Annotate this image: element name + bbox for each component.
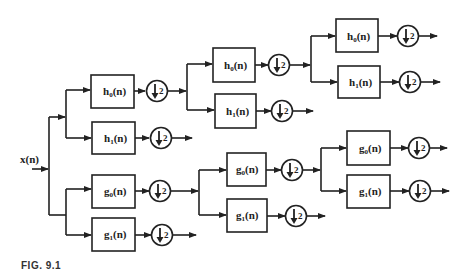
downsample-icon: 2 (400, 72, 421, 93)
svg-text:2: 2 (422, 186, 427, 196)
svg-text:h0(n): h0(n) (103, 85, 126, 99)
svg-text:2: 2 (412, 77, 417, 87)
filter-box-l2-g0: g0(n) (227, 153, 266, 186)
downsample-icon: 2 (398, 26, 419, 47)
figure-caption: FIG. 9.1 (21, 260, 61, 271)
downsample-icon: 2 (272, 101, 293, 122)
svg-text:g1(n): g1(n) (236, 209, 259, 223)
svg-text:2: 2 (294, 165, 299, 175)
downsample-icon: 2 (409, 138, 430, 159)
filter-box-l1-h0: h0(n) (91, 75, 134, 108)
svg-text:h1(n): h1(n) (226, 105, 249, 119)
input-label: x(n) (20, 153, 39, 166)
filter-box-l1-g0: g0(n) (92, 175, 135, 208)
svg-text:2: 2 (421, 143, 426, 153)
filter-box-l3-h0: h0(n) (336, 19, 378, 52)
svg-text:2: 2 (163, 133, 168, 143)
svg-text:g0(n): g0(n) (104, 185, 127, 199)
svg-text:h0(n): h0(n) (224, 59, 247, 73)
svg-text:2: 2 (281, 60, 286, 70)
filter-box-l3-g1: g1(n) (347, 175, 390, 208)
svg-text:h1(n): h1(n) (104, 132, 127, 146)
downsample-icon: 2 (150, 181, 171, 202)
svg-text:2: 2 (284, 106, 289, 116)
filter-box-l1-g1: g1(n) (92, 218, 135, 251)
downsample-icon: 2 (147, 81, 168, 102)
svg-text:2: 2 (410, 31, 415, 41)
downsample-icon: 2 (151, 128, 172, 149)
svg-text:g1(n): g1(n) (104, 228, 127, 242)
svg-text:g1(n): g1(n) (359, 185, 382, 199)
svg-text:2: 2 (298, 211, 303, 221)
svg-text:h1(n): h1(n) (349, 76, 372, 90)
filter-box-l3-h1: h1(n) (338, 66, 380, 98)
filter-bank-diagram: x(n) h0(n) 2 h1(n) 2 h0(n) 2 h1(n) 2 h0(… (0, 0, 468, 274)
filter-box-l3-g0: g0(n) (347, 131, 390, 165)
svg-text:2: 2 (159, 86, 164, 96)
filter-box-l2-h1: h1(n) (215, 94, 256, 128)
downsample-icon: 2 (152, 225, 173, 246)
filter-box-l2-g1: g1(n) (227, 199, 267, 232)
svg-text:g0(n): g0(n) (236, 163, 259, 177)
svg-text:2: 2 (164, 230, 169, 240)
downsample-icon: 2 (269, 55, 290, 76)
svg-text:2: 2 (162, 186, 167, 196)
filter-box-l1-h1: h1(n) (92, 122, 135, 154)
downsample-icon: 2 (410, 181, 431, 202)
svg-text:g0(n): g0(n) (359, 142, 382, 156)
downsample-icon: 2 (282, 160, 303, 181)
downsample-icon: 2 (286, 206, 307, 227)
svg-text:h0(n): h0(n) (347, 30, 370, 44)
filter-box-l2-h0: h0(n) (213, 48, 255, 82)
